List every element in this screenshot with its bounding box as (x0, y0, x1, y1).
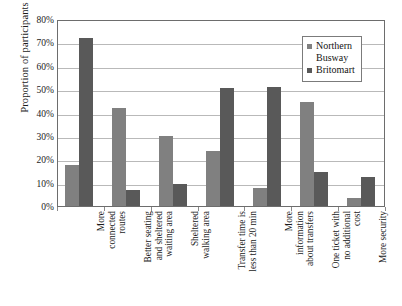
bar (347, 198, 361, 206)
y-axis-tick-label: 30% (26, 132, 54, 142)
x-axis-category-label-line: walking area (201, 211, 212, 306)
bar-group (105, 21, 152, 206)
x-axis-category-label-line: Better seating (143, 211, 154, 306)
x-axis-category-label-line: More security (378, 211, 389, 306)
x-axis-category-label-line: about transfers (305, 211, 316, 306)
legend-entry: Britomart (307, 64, 355, 76)
x-axis-category-label-line: Sheltered (190, 211, 201, 306)
bar (79, 38, 93, 206)
x-axis-category-label-line: routes (118, 211, 129, 306)
chart-legend: Northern BuswayBritomart (302, 36, 362, 82)
bar (112, 108, 126, 206)
bar (173, 184, 187, 206)
bar (220, 88, 234, 206)
x-axis-category-label: Transfer time isless than 20 min (237, 211, 281, 306)
y-axis-tick-label: 70% (26, 38, 54, 48)
bar-group (152, 21, 199, 206)
x-axis-category-label-line: and sheltered (154, 211, 165, 306)
x-axis-category-label-line: One ticket with (331, 211, 342, 306)
bar-group (245, 21, 292, 206)
legend-entry: Northern Busway (307, 40, 355, 63)
x-axis-category-label-line: no additional (341, 211, 352, 306)
y-axis-tick-label: 80% (26, 15, 54, 25)
bar (159, 136, 173, 206)
x-axis-category-label: Moreinformationabout transfers (284, 211, 328, 306)
x-axis-category-labels: MoreconnectedroutesBetter seatingand she… (0, 207, 402, 306)
bar (206, 151, 220, 206)
x-axis-category-label-line: More (284, 211, 295, 306)
x-axis-category-label-line: Transfer time is (237, 211, 248, 306)
x-axis-category-label: More security (378, 211, 402, 306)
x-axis-category-label-line: less than 20 min (248, 211, 259, 306)
x-axis-category-label-line: More (96, 211, 107, 306)
x-axis-category-label: Shelteredwalking area (190, 211, 234, 306)
bar-group (58, 21, 105, 206)
bar (267, 87, 281, 206)
bar-chart: Proportion of participants 80%70%60%50%4… (0, 0, 402, 306)
y-axis-tick-label: 50% (26, 85, 54, 95)
bar (314, 172, 328, 206)
legend-swatch-icon (307, 68, 312, 73)
bar (126, 190, 140, 206)
bar (300, 102, 314, 206)
legend-swatch-icon (307, 44, 312, 49)
x-axis-category-label-line: cost (352, 211, 363, 306)
legend-label: Northern Busway (316, 40, 352, 63)
bar-group (199, 21, 246, 206)
x-axis-category-label-line: information (294, 211, 305, 306)
y-axis-tick-label: 10% (26, 179, 54, 189)
legend-label: Britomart (316, 64, 355, 76)
y-axis-tick-label: 60% (26, 62, 54, 72)
y-axis-tick-label: 20% (26, 155, 54, 165)
bar (253, 188, 267, 206)
x-axis-category-label-line: waiting area (164, 211, 175, 306)
y-axis-tick-labels: 80%70%60%50%40%30%20%10%0% (26, 20, 54, 207)
bar (361, 177, 375, 206)
x-axis-category-label: Moreconnectedroutes (96, 211, 140, 306)
x-axis-category-label-line: connected (107, 211, 118, 306)
y-axis-tick-label: 40% (26, 109, 54, 119)
bar (65, 165, 79, 206)
x-axis-category-label: One ticket withno additionalcost (331, 211, 375, 306)
x-axis-category-label: Better seatingand shelteredwaiting area (143, 211, 187, 306)
